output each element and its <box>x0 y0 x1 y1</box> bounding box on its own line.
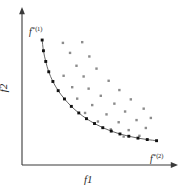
dominated-point <box>97 120 99 122</box>
dominated-point <box>76 97 78 99</box>
dominated-point <box>122 135 124 137</box>
pareto-point-group <box>41 39 158 143</box>
pareto-point <box>47 70 50 73</box>
pareto-point <box>85 117 88 120</box>
dominated-point <box>62 42 64 44</box>
pareto-extreme-label-1: f*(1) <box>29 25 42 37</box>
pareto-point <box>44 60 47 63</box>
y-axis-label: f2 <box>0 84 9 93</box>
dominated-point <box>124 110 126 112</box>
pareto-point <box>127 135 130 138</box>
pareto-point <box>70 105 73 108</box>
dominated-point <box>135 119 137 121</box>
dominated-point <box>69 52 71 54</box>
dominated-point <box>81 41 83 43</box>
pareto-point <box>63 97 66 100</box>
pareto-point <box>41 39 44 42</box>
pareto-point <box>93 122 96 125</box>
dominated-point <box>87 87 89 89</box>
dominated-point <box>105 113 107 115</box>
dominated-point <box>117 121 119 123</box>
pareto-point <box>119 133 122 136</box>
dominated-point <box>62 75 64 77</box>
dominated-point <box>113 102 115 104</box>
pareto-point <box>57 89 60 92</box>
pareto-front-figure: f1 f2 f*(1) f*(2) <box>0 0 185 193</box>
pareto-point <box>77 112 80 115</box>
dominated-point <box>127 129 129 131</box>
pareto-point <box>137 137 140 140</box>
pareto-point <box>110 130 113 133</box>
pareto-point <box>155 139 158 142</box>
pareto-extreme-label-1-index: (1) <box>35 25 42 32</box>
x-axis-label: f1 <box>84 173 93 185</box>
dominated-point-group <box>62 41 152 138</box>
dominated-point <box>107 80 109 82</box>
dominated-point <box>130 98 132 100</box>
y-axis <box>19 7 25 165</box>
dominated-point <box>118 89 120 91</box>
pareto-extreme-label-2: f*(2) <box>150 152 163 164</box>
dominated-point <box>71 86 73 88</box>
pareto-point <box>146 138 149 141</box>
pareto-point <box>42 49 45 52</box>
dominated-point <box>75 65 77 67</box>
pareto-point <box>51 80 54 83</box>
dominated-point <box>142 107 144 109</box>
pareto-extreme-label-2-index: (2) <box>156 152 163 159</box>
dominated-point <box>84 112 86 114</box>
dominated-point <box>82 75 84 77</box>
dominated-point <box>91 104 93 106</box>
dominated-point <box>150 117 152 119</box>
dominated-point <box>88 55 90 57</box>
dominated-point <box>145 127 147 129</box>
dominated-point <box>100 95 102 97</box>
pareto-point <box>101 126 104 129</box>
dominated-point <box>95 67 97 69</box>
